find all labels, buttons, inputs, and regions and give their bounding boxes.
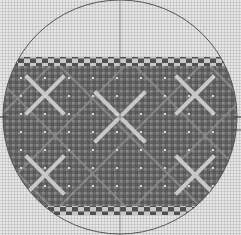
stitch-dot — [92, 95, 94, 97]
chart-canvas — [0, 0, 241, 235]
stitch-dot — [164, 95, 166, 97]
stitch-dot — [188, 185, 190, 187]
stitch-dot — [44, 131, 46, 133]
stitch-dot — [92, 131, 94, 133]
stitch-dot — [164, 185, 166, 187]
stitch-dot — [140, 77, 142, 79]
stitch-dot — [92, 149, 94, 151]
stitch-dot — [188, 77, 190, 79]
stitch-dot — [92, 113, 94, 115]
stitch-dot — [92, 167, 94, 169]
stitch-dot — [188, 167, 190, 169]
stitch-dot — [188, 113, 190, 115]
stitch-dot — [44, 149, 46, 151]
stitch-dot — [20, 131, 22, 133]
stitch-dot — [164, 149, 166, 151]
stitch-dot — [140, 95, 142, 97]
stitch-dot — [188, 149, 190, 151]
stitch-dot — [20, 95, 22, 97]
stitch-dot — [116, 149, 118, 151]
stitch-dot — [212, 77, 214, 79]
stitch-dot — [44, 167, 46, 169]
stitch-dot — [92, 185, 94, 187]
stitch-dot — [44, 77, 46, 79]
band-group — [0, 57, 241, 215]
stitch-dot — [140, 113, 142, 115]
stitch-dot — [164, 131, 166, 133]
stitch-dot — [188, 131, 190, 133]
stitch-dot — [164, 77, 166, 79]
stitch-dot — [212, 113, 214, 115]
stitch-dot — [116, 113, 118, 115]
stitch-chart — [0, 0, 241, 235]
stitch-dot — [164, 167, 166, 169]
stitch-dot — [20, 149, 22, 151]
stitch-dot — [164, 113, 166, 115]
stitch-dot — [212, 167, 214, 169]
stitch-dot — [68, 167, 70, 169]
stitch-dot — [140, 185, 142, 187]
stitch-dot — [116, 167, 118, 169]
stitch-dot — [68, 185, 70, 187]
stitch-dot — [116, 77, 118, 79]
stitch-dot — [68, 131, 70, 133]
stitch-dot — [188, 95, 190, 97]
band-border-top — [0, 57, 241, 66]
stitch-dot — [116, 131, 118, 133]
stitch-dot — [140, 149, 142, 151]
stitch-dot — [44, 95, 46, 97]
stitch-dot — [20, 167, 22, 169]
stitch-dot — [44, 185, 46, 187]
stitch-dot — [20, 113, 22, 115]
stitch-dot — [212, 131, 214, 133]
stitch-dot — [116, 95, 118, 97]
stitch-dot — [140, 167, 142, 169]
stitch-dot — [68, 149, 70, 151]
stitch-dot — [20, 77, 22, 79]
stitch-dot — [116, 185, 118, 187]
stitch-dot — [212, 149, 214, 151]
stitch-dot — [68, 95, 70, 97]
stitch-dot — [68, 113, 70, 115]
stitch-dot — [140, 131, 142, 133]
stitch-dot — [212, 95, 214, 97]
stitch-dot — [44, 113, 46, 115]
stitch-dot — [68, 77, 70, 79]
stitch-dot — [92, 77, 94, 79]
